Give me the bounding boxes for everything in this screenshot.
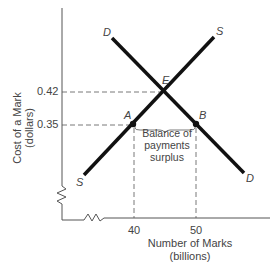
y-axis-label: Cost of a Mark (dollars) [11,83,35,173]
surplus-annotation: Balance of payments surplus [136,127,198,163]
y-axis [57,8,66,220]
x-axis-label: Number of Marks (billions) [140,237,240,263]
point-e-label: E [162,74,169,86]
x-tick-50: 50 [190,224,202,236]
y-tick-042: 0.42 [37,85,58,97]
point-a-label: A [124,109,131,121]
x-tick-40: 40 [128,224,140,236]
supply-label-bottom: S [76,176,83,188]
supply-label-top: S [216,25,223,37]
demand-label-top: D [103,26,111,38]
demand-label-bottom: D [246,172,254,184]
point-b-label: B [199,109,206,121]
y-tick-035: 0.35 [37,118,58,130]
x-axis [62,214,270,221]
